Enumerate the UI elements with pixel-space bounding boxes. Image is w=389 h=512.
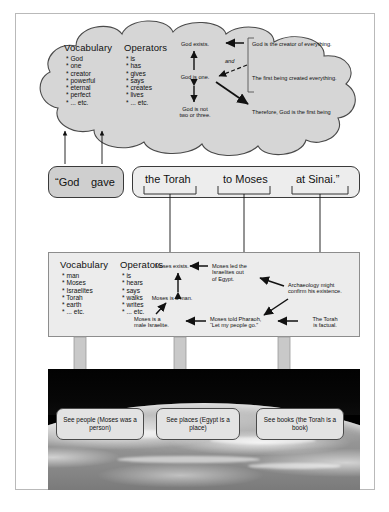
outcome-box-people[interactable]: See people (Moses was a person) [56,408,144,440]
outcome-box-books[interactable]: See books (the Torah is a book) [256,408,344,440]
outcome-label: See places (Egypt is a place) [157,416,239,432]
slide-frame: Vocabulary * God * one * creator * power… [15,13,375,490]
outcome-box-places[interactable]: See places (Egypt is a place) [156,408,240,440]
outcome-label: See books (the Torah is a book) [257,416,343,432]
outcome-label: See people (Moses was a person) [57,416,143,432]
